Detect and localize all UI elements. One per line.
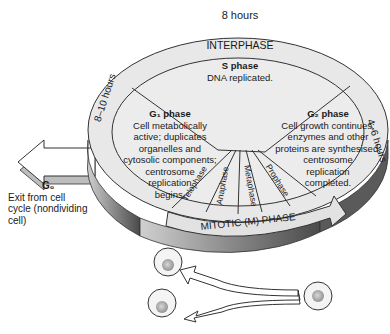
g1-line: active; duplicates [120, 131, 220, 143]
g2-line: replication [268, 166, 388, 178]
g1-line: organelles and [120, 143, 220, 155]
top-duration-label: 8 hours [200, 10, 280, 22]
division-arrows [180, 266, 300, 322]
g1-line: replication [120, 177, 220, 189]
g0-title: G₀ [8, 180, 108, 192]
interphase-label: INTERPHASE [190, 40, 290, 52]
g1-phase-label: G₁ phase Cell metabolically active; dupl… [120, 108, 220, 200]
g2-line: proteins are synthesised; [268, 143, 388, 155]
g1-line: Cell metabolically [120, 120, 220, 132]
g0-line: cell) [8, 215, 108, 227]
daughter-cell-top [154, 248, 182, 276]
parent-cell [304, 282, 332, 310]
g1-phase-title: G₁ phase [120, 108, 220, 120]
g0-line: cycle (nondividing [8, 203, 108, 215]
s-phase-title: S phase [185, 60, 295, 72]
daughter-cell-bottom [148, 289, 176, 317]
g1-line: begins. [120, 189, 220, 201]
s-phase-label: S phase DNA replicated. [185, 60, 295, 83]
g0-label: G₀ Exit from cell cycle (nondividing cel… [8, 180, 108, 226]
g2-line: centrosome [268, 154, 388, 166]
g0-line: Exit from cell [8, 192, 108, 204]
s-phase-desc: DNA replicated. [185, 72, 295, 84]
